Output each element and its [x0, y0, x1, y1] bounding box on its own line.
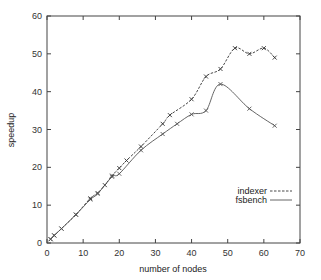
y-tick-label: 30 — [32, 125, 42, 135]
data-point-fsbench — [175, 122, 179, 126]
data-point-fsbench — [59, 227, 63, 231]
x-tick-label: 30 — [150, 248, 160, 258]
y-tick-label: 40 — [32, 87, 42, 97]
data-point-fsbench — [190, 112, 194, 116]
legend-label-fsbench: fsbench — [235, 195, 267, 205]
data-point-indexer — [218, 67, 222, 71]
data-point-indexer — [117, 166, 121, 170]
x-tick-label: 60 — [259, 248, 269, 258]
x-tick-label: 0 — [44, 248, 49, 258]
data-point-fsbench — [161, 132, 165, 136]
data-point-fsbench — [247, 107, 251, 111]
data-point-indexer — [190, 97, 194, 101]
data-point-fsbench — [117, 172, 121, 176]
chart: 0102030405060700102030405060 number of n… — [0, 0, 321, 280]
x-axis-title: number of nodes — [139, 264, 207, 274]
series-line-indexer — [51, 48, 275, 240]
y-tick-label: 50 — [32, 49, 42, 59]
x-tick-label: 70 — [295, 248, 305, 258]
y-tick-label: 20 — [32, 162, 42, 172]
y-tick-label: 60 — [32, 11, 42, 21]
x-tick-label: 40 — [187, 248, 197, 258]
data-point-indexer — [139, 145, 143, 149]
data-point-fsbench — [49, 237, 53, 241]
data-point-indexer — [273, 56, 277, 60]
y-axis-title: speedup — [6, 113, 16, 148]
x-tick-label: 50 — [223, 248, 233, 258]
y-tick-label: 0 — [37, 238, 42, 248]
data-point-fsbench — [52, 233, 56, 237]
x-tick-label: 20 — [114, 248, 124, 258]
data-point-indexer — [125, 159, 129, 163]
data-point-fsbench — [273, 124, 277, 128]
series-fsbench — [49, 82, 277, 241]
data-point-indexer — [168, 113, 172, 117]
data-point-indexer — [204, 75, 208, 79]
y-tick-label: 10 — [32, 200, 42, 210]
data-point-indexer — [161, 122, 165, 126]
data-point-fsbench — [74, 213, 78, 217]
series-indexer — [49, 46, 277, 241]
x-tick-label: 10 — [78, 248, 88, 258]
series-group — [49, 46, 277, 241]
data-point-fsbench — [204, 109, 208, 113]
data-point-fsbench — [139, 148, 143, 152]
series-line-fsbench — [51, 84, 275, 239]
legend: indexerfsbench — [235, 186, 292, 205]
